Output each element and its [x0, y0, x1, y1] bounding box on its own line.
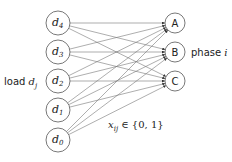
edge-d2-B: [70, 54, 166, 78]
phase-nodes: ABC: [165, 13, 185, 91]
phase-node-B: B: [165, 42, 185, 62]
load-label: load dj: [4, 76, 38, 90]
load-phase-assignment-diagram: d4d3d2d1d0 ABC load dj phase i xij ∈ {0,…: [0, 0, 232, 162]
load-node-d4: d4: [46, 11, 70, 35]
phase-label: phase i: [191, 47, 228, 58]
phase-label-text: phase: [191, 47, 224, 58]
edge-d4-C: [69, 28, 166, 76]
edge-variable-label: xij ∈ {0, 1}: [108, 119, 164, 133]
phase-node-label: C: [172, 76, 179, 87]
edge-d4-B: [70, 26, 166, 50]
load-nodes: d4d3d2d1d0: [46, 11, 70, 152]
edge-d3-A: [70, 25, 166, 49]
phase-node-C: C: [165, 71, 185, 91]
phase-label-var: i: [224, 47, 227, 58]
load-label-text: load: [4, 76, 29, 87]
load-node-d3: d3: [46, 40, 70, 64]
edge-d2-A: [69, 27, 166, 75]
phase-node-label: B: [172, 47, 179, 58]
edge-d1-A: [68, 29, 167, 103]
edge-d3-C: [70, 55, 166, 79]
phase-node-label: A: [172, 18, 179, 29]
load-node-d2: d2: [46, 69, 70, 93]
load-node-d1: d1: [46, 98, 70, 122]
load-node-d0: d0: [46, 128, 70, 152]
edge-var-domain: ∈ {0, 1}: [118, 119, 164, 130]
assignment-edges: [66, 23, 167, 135]
phase-node-A: A: [165, 13, 185, 33]
